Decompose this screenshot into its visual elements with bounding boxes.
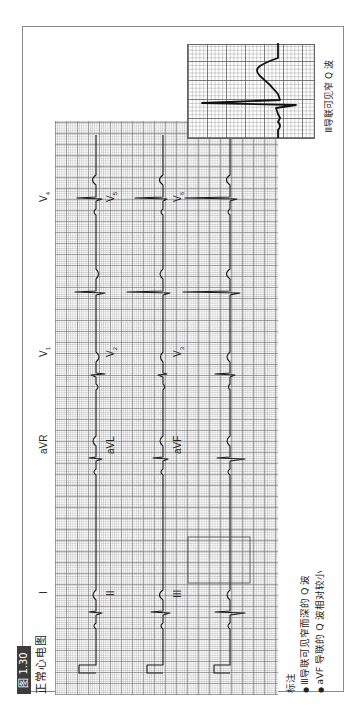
- notes-block: 标注 Ⅲ导联可见窄而深的 Q 波 aVF 导联的 Q 波相对较小: [284, 570, 328, 693]
- lead-label-v1: V1: [38, 347, 51, 357]
- notes-heading: 标注: [284, 570, 297, 693]
- inset-lead-iii-zoom: [187, 44, 315, 139]
- lead-label-v5: V5: [105, 192, 118, 202]
- lead-label-avl: aVL: [105, 436, 116, 454]
- note-item: aVF 导联的 Q 波相对较小: [313, 570, 328, 693]
- inset-trace: [188, 43, 316, 138]
- lead-label-avf: aVF: [172, 436, 183, 454]
- lead-iii-highlight-box: [188, 537, 250, 583]
- lead-label-ii: II: [105, 590, 116, 596]
- ecg-grid: I aVR V1 V4 II aVL V2 V5 III aVF V3 V6: [55, 121, 278, 695]
- lead-label-v4: V4: [38, 192, 51, 202]
- inset-caption: Ⅲ导联可见窄 Q 波: [322, 60, 335, 133]
- lead-label-iii: III: [172, 590, 183, 598]
- lead-label-v2: V2: [105, 347, 118, 357]
- lead-label-avr: aVR: [38, 435, 49, 454]
- lead-label-i: I: [38, 591, 49, 594]
- figure-title: 正常心电图: [32, 634, 48, 694]
- figure-number-badge: 图 1.30: [17, 646, 31, 694]
- figure-page: 图 1.30 正常心电图 I aVR V1 V4 II aVL V2 V5 II…: [0, 0, 361, 711]
- ecg-traces: [55, 121, 278, 695]
- lead-label-v6: V6: [172, 192, 185, 202]
- lead-label-v3: V3: [172, 347, 185, 357]
- note-item: Ⅲ导联可见窄而深的 Q 波: [298, 570, 313, 693]
